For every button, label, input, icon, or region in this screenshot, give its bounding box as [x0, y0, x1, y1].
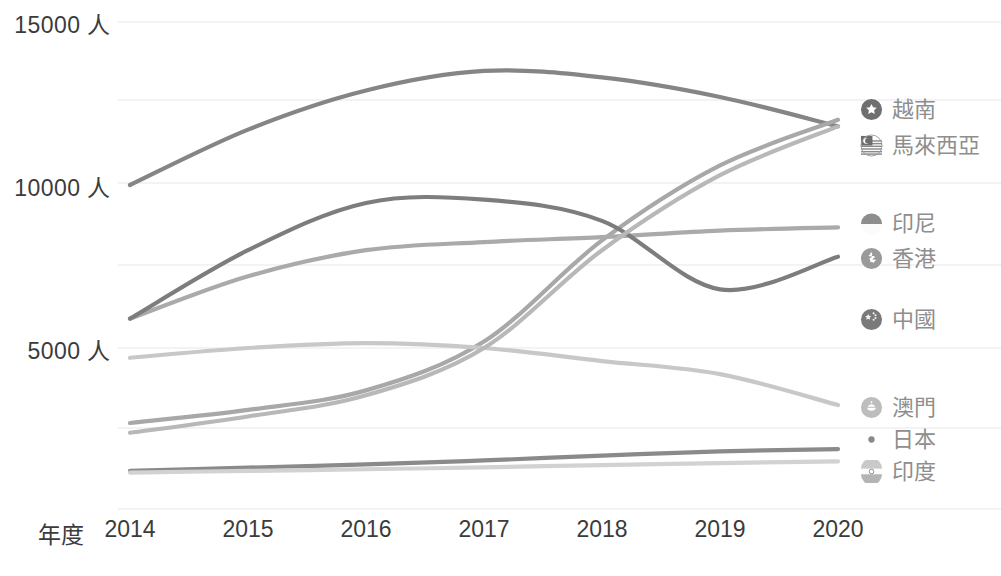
x-axis-tick-label: 2016: [340, 516, 391, 543]
legend-item-hongkong[interactable]: 香港: [860, 247, 936, 270]
legend-item-indonesia[interactable]: 印尼: [860, 212, 936, 235]
vietnam-flag-icon: [860, 98, 883, 121]
legend-item-label: 日本: [892, 429, 936, 451]
legend-item-malaysia[interactable]: 馬來西亞: [860, 134, 980, 157]
series-line-hongkong: [130, 227, 838, 318]
x-axis-tick-label: 2014: [104, 516, 155, 543]
plot-area: [0, 0, 1001, 576]
japan-flag-icon: [860, 428, 883, 451]
legend-item-japan[interactable]: 日本: [860, 428, 936, 451]
x-axis-tick-label: 2020: [812, 516, 863, 543]
x-axis-tick-label: 2017: [458, 516, 509, 543]
legend-item-label: 中國: [892, 309, 936, 331]
legend-item-label: 印尼: [892, 213, 936, 235]
x-axis-title: 年度: [38, 516, 84, 550]
y-axis-tick-label: 5000 人: [27, 332, 111, 366]
india-flag-icon: [860, 460, 883, 483]
legend-item-label: 越南: [892, 99, 936, 121]
legend-item-label: 澳門: [892, 397, 936, 419]
chart-legend: 越南馬來西亞印尼香港中國澳門日本印度: [860, 0, 1001, 576]
x-axis-tick-label: 2015: [222, 516, 273, 543]
series-line-china: [130, 197, 838, 319]
x-axis-tick-label: 2019: [694, 516, 745, 543]
y-axis-tick-label: 15000 人: [14, 6, 111, 40]
hongkong-flag-icon: [860, 247, 883, 270]
x-axis-tick-label: 2018: [576, 516, 627, 543]
macau-flag-icon: [860, 396, 883, 419]
legend-item-macau[interactable]: 澳門: [860, 396, 936, 419]
china-flag-icon: [860, 308, 883, 331]
malaysia-flag-icon: [860, 134, 883, 157]
legend-item-china[interactable]: 中國: [860, 308, 936, 331]
line-chart: 15000 人10000 人5000 人 2014201520162017201…: [0, 0, 1001, 576]
y-axis-tick-label: 10000 人: [14, 169, 111, 203]
legend-item-label: 馬來西亞: [892, 135, 980, 157]
series-lines: [130, 70, 838, 472]
indonesia-flag-icon: [860, 212, 883, 235]
legend-item-label: 印度: [892, 461, 936, 483]
legend-item-india[interactable]: 印度: [860, 460, 936, 483]
legend-item-label: 香港: [892, 248, 936, 270]
series-line-indonesia: [130, 343, 838, 405]
legend-item-vietnam[interactable]: 越南: [860, 98, 936, 121]
